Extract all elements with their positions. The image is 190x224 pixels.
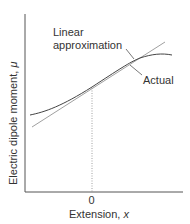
linear-leader-line [126, 49, 134, 59]
x-tick-zero: 0 [89, 194, 95, 206]
y-axis-label: Electric dipole moment, μ [7, 62, 19, 185]
chart: Linear approximation Actual 0 Extension,… [0, 0, 190, 224]
linear-label-line1: Linear [53, 26, 84, 38]
actual-leader-line [130, 65, 142, 75]
x-axis-label: Extension, x [69, 208, 129, 220]
actual-label: Actual [143, 74, 174, 86]
linear-label-line2: approximation [53, 39, 122, 51]
